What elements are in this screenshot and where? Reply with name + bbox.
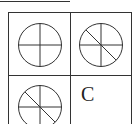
figure-grid: C <box>8 12 132 124</box>
cell-top-right <box>78 22 124 68</box>
circle-cross-diagonal-icon <box>17 84 63 124</box>
vertical-divider <box>70 13 71 124</box>
circle-cross-icon <box>17 22 63 68</box>
horizontal-divider <box>9 75 131 76</box>
answer-label: C <box>81 84 94 104</box>
cell-bottom-left <box>17 84 63 124</box>
top-rule-line <box>0 1 70 2</box>
circle-cross-diagonal-icon <box>78 22 124 68</box>
cell-top-left <box>17 22 63 68</box>
